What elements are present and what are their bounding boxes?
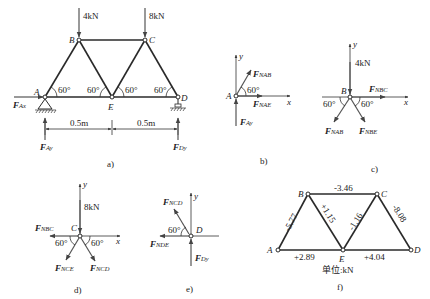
node-c xyxy=(78,234,82,238)
y-axis-label: y xyxy=(82,179,87,189)
node-d xyxy=(176,95,180,99)
dimension-label: 0.5m xyxy=(70,118,88,128)
node-label-a: A xyxy=(225,91,232,101)
force-label-nae: FNAE xyxy=(252,99,271,109)
node-label-b: B xyxy=(298,189,304,199)
node-label-d: D xyxy=(413,245,421,255)
member-force-be: +1.15 xyxy=(318,202,338,225)
dimension-line xyxy=(45,120,178,135)
load-label-b: 4kN xyxy=(83,11,99,21)
pin-support-icon xyxy=(35,99,56,113)
node-a xyxy=(234,94,238,98)
caption-a: a) xyxy=(107,159,114,169)
reaction-label-ax: FAx xyxy=(12,100,26,110)
load-label: 8kN xyxy=(84,202,100,212)
member-force-ed: +4.04 xyxy=(364,252,385,262)
x-axis-label: x xyxy=(286,97,291,107)
node-label-e: E xyxy=(338,254,345,264)
angle-label: 60° xyxy=(87,85,100,95)
x-axis-label: x xyxy=(403,97,408,107)
node-label-b: B xyxy=(341,86,347,96)
angle-label: 60° xyxy=(361,99,374,109)
y-axis-label: y xyxy=(238,51,243,61)
load-label-c: 8kN xyxy=(149,11,165,21)
angle-label: 60° xyxy=(154,85,167,95)
y-axis-label: y xyxy=(352,39,357,49)
node-a xyxy=(276,248,280,252)
angle-label: 60° xyxy=(91,238,104,248)
force-label-ay: FAy xyxy=(239,117,253,127)
force-label-nab: FNAB xyxy=(252,69,271,79)
member-force-ce: -1.16 xyxy=(346,210,365,232)
force-label-dy: FDy xyxy=(194,253,209,263)
node-e xyxy=(110,95,114,99)
node-b xyxy=(77,38,81,42)
node-label-d: D xyxy=(180,93,188,103)
node-label-c: C xyxy=(71,223,78,233)
force-label-nab: FNAB xyxy=(324,126,343,136)
force-label-ncd: FNCD xyxy=(162,197,183,207)
unit-label: 单位:kN xyxy=(322,264,354,275)
angle-label: 60° xyxy=(323,99,336,109)
node-label-e: E xyxy=(107,102,114,112)
node-label-c: C xyxy=(149,35,156,45)
caption-b: b) xyxy=(260,156,268,166)
node-c xyxy=(375,192,379,196)
force-label-ncd: FNCD xyxy=(89,263,110,273)
dimension-label: 0.5m xyxy=(137,118,155,128)
node-label-a: A xyxy=(266,245,273,255)
angle-label: 60° xyxy=(168,225,181,235)
node-e xyxy=(341,248,345,252)
load-label: 4kN xyxy=(355,58,371,68)
force-arrow-nce xyxy=(66,238,79,260)
caption-c: c) xyxy=(371,164,378,174)
panel-f-member-forces: A B C D E -3.46 -5.77 +1.15 -1.16 -8.08 … xyxy=(266,183,421,292)
truss-analysis-figure: 60° 60° 60° 60° A B C D E 4kN 8kN FAx xyxy=(0,0,430,299)
panel-e-free-body-d: y FNCD FNDE FDy 60° D e) xyxy=(149,191,219,294)
node-label-d: D xyxy=(195,225,203,235)
y-axis-label: y xyxy=(193,191,198,201)
force-label-nbc: FNBC xyxy=(34,223,54,233)
node-b xyxy=(348,95,352,99)
force-label-nbe: FNBE xyxy=(358,126,377,136)
node-d xyxy=(189,234,193,238)
node-label-c: C xyxy=(381,189,388,199)
force-label-nce: FNCE xyxy=(54,263,74,273)
reaction-label-ay: FAy xyxy=(39,142,53,152)
panel-b-free-body-a: y x FNAB 60° FNAE FAy A b) xyxy=(225,51,291,166)
node-label-a: A xyxy=(33,87,40,97)
x-axis-label: x xyxy=(115,236,120,246)
angle-label: 60° xyxy=(125,85,138,95)
angle-label: 60° xyxy=(247,85,260,95)
node-label-b: B xyxy=(69,35,75,45)
angle-label: 60° xyxy=(55,238,68,248)
caption-e: e) xyxy=(186,284,193,294)
node-b xyxy=(306,192,310,196)
force-label-nbc: FNBC xyxy=(368,84,388,94)
caption-d: d) xyxy=(74,285,82,295)
panel-d-free-body-c: y x 8kN FNBC FNCE FNCD 60° 60° C d) xyxy=(34,179,120,295)
member-force-bc: -3.46 xyxy=(334,183,353,193)
panel-c-free-body-b: y x 4kN FNBC FNAB FNBE 60° 60° B c) xyxy=(322,39,408,174)
angle-label: 60° xyxy=(58,85,71,95)
member-force-ae: +2.89 xyxy=(294,252,315,262)
force-label-nde: FNDE xyxy=(149,239,169,249)
panel-a-truss: 60° 60° 60° 60° A B C D E 4kN 8kN FAx xyxy=(12,8,188,169)
caption-f: f) xyxy=(337,282,343,292)
reaction-label-dy: FDy xyxy=(172,142,187,152)
node-c xyxy=(143,38,147,42)
node-d xyxy=(409,248,413,252)
